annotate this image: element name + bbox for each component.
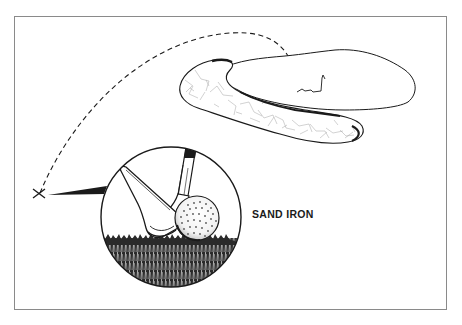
x-mark-icon	[33, 189, 45, 198]
inset-circle	[95, 145, 255, 298]
golf-ball	[175, 196, 219, 240]
callout-pointer	[48, 186, 107, 195]
caption-label: SAND IRON	[252, 208, 314, 220]
grass	[95, 238, 255, 298]
golf-illustration	[0, 0, 462, 325]
